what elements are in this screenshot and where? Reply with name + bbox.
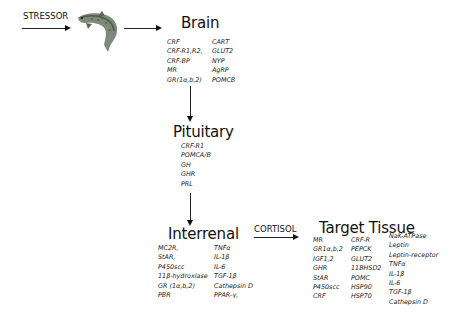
brain-list-col1: CRF CRF-R1,R2, CRF-BP MR GR(1α,b,2): [167, 38, 203, 85]
pituitary-item: GH: [181, 161, 211, 170]
target-tissue-item: CRF-R: [351, 236, 381, 245]
pituitary-item: CRF-R1: [181, 142, 211, 151]
brain-item: AgRP: [212, 66, 235, 75]
fish-to-brain-arrow: [124, 28, 156, 29]
interrenal-title: Interrenal: [168, 225, 239, 243]
cortisol-arrow: [254, 237, 294, 238]
brain-item: POMCB: [212, 76, 235, 85]
target-tissue-item: P450scc: [313, 283, 343, 292]
interrenal-item: PPAR-γ,: [214, 291, 253, 300]
pituitary-to-interrenal-arrow: [190, 193, 191, 221]
interrenal-item: PBR: [158, 291, 208, 300]
target-tissue-item: PEPCK: [351, 245, 381, 254]
target-tissue-item: IGF1,2: [313, 255, 343, 264]
interrenal-item: 11β-hydroxlase: [158, 272, 208, 281]
target-tissue-item: GHR: [313, 264, 343, 273]
brain-item: GR(1α,b,2): [167, 76, 203, 85]
stressor-label: STRESSOR: [23, 11, 68, 21]
target-tissue-item: TGF-1β: [389, 288, 438, 297]
brain-list-col2: CART GLUT2 NYP AgRP POMCB: [212, 38, 235, 85]
stressor-arrow: [22, 28, 65, 29]
interrenal-item: GR (1α,b,2): [158, 282, 208, 291]
interrenal-item: StAR,: [158, 253, 208, 262]
cortisol-label: CORTISOL: [254, 224, 296, 234]
target-tissue-item: POMC: [351, 274, 381, 283]
interrenal-item: IL-6: [214, 263, 253, 272]
target-tissue-item: 11BHSD2: [351, 264, 381, 273]
brain-to-pituitary-arrow: [190, 86, 191, 117]
target-tissue-item: Cathepsin D: [389, 298, 438, 307]
brain-to-pituitary-arrowhead-icon: [187, 116, 193, 122]
target-tissue-item: CRF: [313, 292, 343, 301]
target-tissue-item: GR1α,b,2: [313, 245, 343, 254]
cortisol-arrowhead-icon: [293, 234, 299, 240]
brain-item: CRF: [167, 38, 203, 47]
target-tissue-item: GLUT2: [351, 255, 381, 264]
brain-item: GLUT2: [212, 47, 235, 56]
target-tissue-item: NaK-ATPase: [389, 232, 438, 241]
brain-item: MR: [167, 66, 203, 75]
interrenal-list-col1: MC2R, StAR, P450scc 11β-hydroxlase GR (1…: [158, 244, 208, 300]
brain-item: CRF-BP: [167, 57, 203, 66]
brain-item: NYP: [212, 57, 235, 66]
brain-item: CART: [212, 38, 235, 47]
target-tissue-list-col3: NaK-ATPase Leptin Leptin-receptor TNFα I…: [389, 232, 438, 307]
pituitary-item: GHR: [181, 170, 211, 179]
target-tissue-item: StAR: [313, 274, 343, 283]
brain-title: Brain: [181, 14, 219, 32]
interrenal-item: TNFα: [214, 244, 253, 253]
interrenal-item: TGF-1β: [214, 272, 253, 281]
fish-to-brain-arrowhead-icon: [156, 25, 162, 31]
target-tissue-item: IL-1β: [389, 270, 438, 279]
pituitary-item: PRL: [181, 180, 211, 189]
pituitary-list: CRF-R1 POMCA/B GH GHR PRL: [181, 142, 211, 189]
interrenal-item: P450scc: [158, 263, 208, 272]
target-tissue-item: IL-6: [389, 279, 438, 288]
stressor-arrowhead-icon: [65, 25, 71, 31]
target-tissue-item: Leptin-receptor: [389, 251, 438, 260]
pituitary-title: Pituitary: [173, 123, 234, 141]
pituitary-item: POMCA/B: [181, 151, 211, 160]
target-tissue-item: MR: [313, 236, 343, 245]
interrenal-list-col2: TNFα IL-1β IL-6 TGF-1β Cathepsin D PPAR-…: [214, 244, 253, 300]
interrenal-item: MC2R,: [158, 244, 208, 253]
target-tissue-item: HSP90: [351, 283, 381, 292]
target-tissue-item: HSP70: [351, 292, 381, 301]
target-tissue-item: Leptin: [389, 241, 438, 250]
brain-item: CRF-R1,R2,: [167, 47, 203, 56]
trout-fish-icon: [74, 10, 122, 54]
target-tissue-item: TNFα: [389, 260, 438, 269]
interrenal-item: Cathepsin D: [214, 282, 253, 291]
target-tissue-list-col2: CRF-R PEPCK GLUT2 11BHSD2 POMC HSP90 HSP…: [351, 236, 381, 302]
target-tissue-list-col1: MR GR1α,b,2 IGF1,2 GHR StAR P450scc CRF: [313, 236, 343, 302]
interrenal-item: IL-1β: [214, 253, 253, 262]
